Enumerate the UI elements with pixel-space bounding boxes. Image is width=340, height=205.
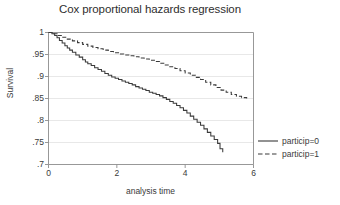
legend-item-particip-1: particip=1 — [258, 147, 340, 160]
chart-legend: particip=0 particip=1 — [258, 134, 340, 160]
series-line-particip-0 — [49, 33, 223, 153]
chart-figure: Cox proportional hazards regression Surv… — [0, 0, 340, 205]
solid-line-icon — [258, 137, 278, 145]
legend-label: particip=1 — [282, 149, 319, 159]
plot-area — [0, 0, 340, 205]
legend-label: particip=0 — [282, 136, 319, 146]
series-line-particip-1 — [49, 33, 247, 99]
legend-item-particip-0: particip=0 — [258, 134, 340, 147]
dashed-line-icon — [258, 150, 278, 158]
